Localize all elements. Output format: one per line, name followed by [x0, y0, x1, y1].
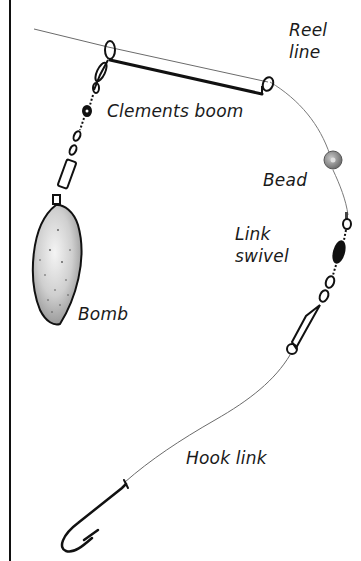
- label-bead: Bead: [263, 169, 307, 191]
- link-swivel: [287, 212, 351, 354]
- clements-boom: [105, 41, 275, 94]
- rig-diagram: [0, 0, 361, 561]
- label-bomb: Bomb: [78, 303, 128, 325]
- label-link-swivel: Link swivel: [235, 223, 289, 267]
- bead: [324, 151, 342, 169]
- label-reel-line: Reel line: [289, 19, 327, 63]
- label-hook-link: Hook link: [186, 447, 267, 469]
- hook: [62, 480, 128, 552]
- label-clements-boom: Clements boom: [107, 100, 244, 122]
- swivel-chain: [53, 60, 109, 204]
- bomb-weight: [33, 205, 82, 325]
